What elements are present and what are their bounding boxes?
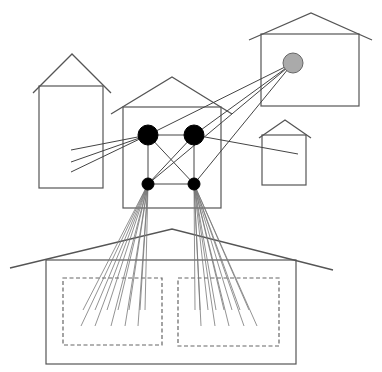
top-right-house-roof <box>249 13 372 40</box>
hub-bottom-left-node-icon <box>142 178 154 190</box>
fan-line <box>95 184 148 310</box>
bottom-wide-house-roof <box>10 229 333 270</box>
fan-right <box>194 184 257 326</box>
fan-left <box>81 184 148 326</box>
left-tall-house <box>33 54 111 188</box>
remote-gray-node-icon <box>283 53 303 73</box>
zone-left <box>63 278 162 345</box>
center-house <box>111 77 232 208</box>
fan-line <box>81 184 148 326</box>
bottom-wide-house <box>10 229 333 364</box>
fan-line <box>194 184 257 326</box>
links-layer <box>71 63 298 184</box>
left-tall-house-body <box>39 86 103 188</box>
hub-top-left-node-icon <box>138 125 158 145</box>
small-right-house <box>259 120 311 185</box>
hub-bottom-right-node-icon <box>188 178 200 190</box>
link-line <box>71 135 148 162</box>
fan-line <box>107 184 148 310</box>
bottom-wide-house-body <box>46 260 296 364</box>
center-house-roof <box>111 77 232 114</box>
top-right-house-body <box>261 34 359 106</box>
hub-top-right-node-icon <box>184 125 204 145</box>
link-line <box>71 135 148 172</box>
zone-right <box>178 278 279 346</box>
left-tall-house-roof <box>33 54 111 93</box>
link-line <box>194 135 298 154</box>
dashed-zones-layer <box>63 278 279 346</box>
fan-line <box>125 184 148 326</box>
link-line <box>194 63 293 184</box>
center-house-body <box>123 107 221 208</box>
network-diagram <box>0 0 382 372</box>
small-right-house-body <box>262 135 306 185</box>
fan-lines-layer <box>81 184 257 326</box>
diagram-svg <box>0 0 382 372</box>
link-line <box>71 135 148 150</box>
top-right-house <box>249 13 372 106</box>
